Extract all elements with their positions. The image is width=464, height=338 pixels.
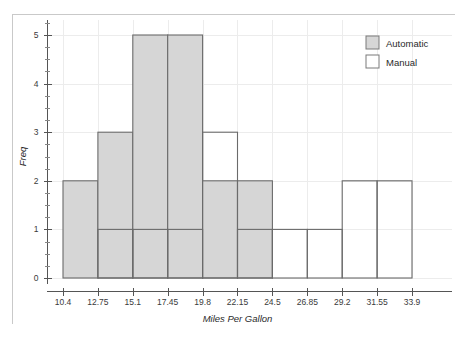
- x-axis-title: Miles Per Gallon: [203, 313, 273, 324]
- x-tick-label: 29.2: [334, 297, 351, 307]
- x-tick-label: 26.85: [297, 297, 319, 307]
- legend-label-automatic: Automatic: [386, 38, 428, 49]
- x-tick-label: 33.9: [404, 297, 421, 307]
- y-axis: [44, 20, 52, 284]
- y-tick-label: 1: [34, 224, 39, 234]
- histogram-plot: 012345 10.412.7515.117.4519.822.1524.526…: [0, 0, 464, 338]
- bar-manual: [307, 229, 342, 278]
- y-tick-label: 2: [34, 176, 39, 186]
- x-tick-label: 17.45: [157, 297, 179, 307]
- bar-automatic: [63, 181, 98, 278]
- y-axis-title: Freq: [17, 146, 28, 166]
- bar-automatic: [168, 35, 203, 278]
- x-tick-label: 10.4: [55, 297, 72, 307]
- x-tick-label: 24.5: [264, 297, 281, 307]
- y-tick-labels: 012345: [34, 30, 39, 283]
- legend: AutomaticManual: [366, 36, 428, 68]
- y-tick-label: 4: [34, 79, 39, 89]
- bar-automatic: [133, 35, 168, 278]
- y-tick-label: 3: [34, 127, 39, 137]
- bar-automatic: [203, 181, 238, 278]
- chart-root: 012345 10.412.7515.117.4519.822.1524.526…: [0, 0, 464, 338]
- x-tick-label: 22.15: [227, 297, 249, 307]
- legend-swatch-automatic: [366, 36, 379, 49]
- x-tick-label: 31.55: [366, 297, 388, 307]
- x-tick-labels: 10.412.7515.117.4519.822.1524.526.8529.2…: [55, 297, 421, 307]
- x-axis: [47, 288, 452, 296]
- legend-label-manual: Manual: [386, 57, 417, 68]
- bar-automatic: [98, 132, 133, 278]
- y-tick-label: 0: [34, 273, 39, 283]
- y-tick-label: 5: [34, 30, 39, 40]
- bar-manual: [272, 229, 307, 278]
- legend-swatch-manual: [366, 55, 379, 68]
- x-tick-label: 19.8: [194, 297, 211, 307]
- x-tick-label: 12.75: [87, 297, 109, 307]
- x-tick-label: 15.1: [125, 297, 142, 307]
